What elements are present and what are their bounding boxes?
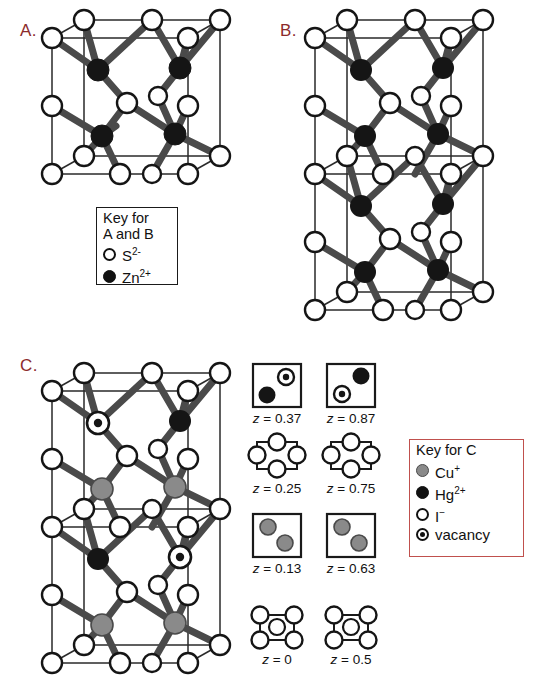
z-value-3: = 0.75 xyxy=(337,481,375,496)
z-value-7: = 0.5 xyxy=(341,652,371,667)
key-c-item-i: I− xyxy=(410,504,523,526)
z-layer-panel-5 xyxy=(325,512,377,559)
structure-a-cell xyxy=(42,8,232,196)
key-c-label-vacancy: vacancy xyxy=(435,527,490,543)
key-c-item-vacancy: vacancy xyxy=(410,526,523,544)
z-value-5: = 0.63 xyxy=(337,561,375,576)
z-layer-panel-3 xyxy=(325,432,377,479)
open-circle-icon xyxy=(103,248,116,261)
z-layer-caption-4: z = 0.13 xyxy=(245,561,309,576)
key-ab-title-line1: Key for xyxy=(103,211,177,227)
key-c-item-hg: Hg2+ xyxy=(410,482,523,504)
key-for-a-and-b: Key for A and B S2- Zn2+ xyxy=(96,207,178,285)
z-layer-panel-4 xyxy=(251,512,303,559)
key-ab-item-zn: Zn2+ xyxy=(97,265,177,287)
key-for-c: Key for C Cu+ Hg2+ I− vacancy xyxy=(409,439,524,557)
key-ab-label-zn: Zn2+ xyxy=(122,266,151,286)
z-value-6: = 0 xyxy=(273,652,292,667)
filled-circle-icon xyxy=(103,270,116,283)
z-value-4: = 0.13 xyxy=(263,561,301,576)
z-layer-caption-0: z = 0.37 xyxy=(245,411,309,426)
structure-c-cell xyxy=(42,346,237,686)
key-c-label-hg: Hg2+ xyxy=(435,483,466,503)
filled-circle-icon xyxy=(416,486,429,499)
z-value-1: = 0.87 xyxy=(337,411,375,426)
z-layer-panel-1 xyxy=(325,362,377,409)
key-c-title: Key for C xyxy=(410,440,523,460)
z-layer-caption-3: z = 0.75 xyxy=(319,481,383,496)
z-layer-caption-1: z = 0.87 xyxy=(319,411,383,426)
z-layer-panel-2 xyxy=(251,432,303,479)
z-layer-panel-0 xyxy=(251,362,303,409)
structure-b-cell xyxy=(305,8,500,318)
panel-label-c: C. xyxy=(20,356,38,376)
key-ab-item-s: S2- xyxy=(97,243,177,265)
key-ab-title: Key for A and B xyxy=(97,208,177,243)
key-c-label-i: I− xyxy=(435,505,445,525)
gray-circle-icon xyxy=(416,464,429,477)
z-layer-panel-6 xyxy=(251,604,303,651)
key-ab-label-s: S2- xyxy=(122,244,141,264)
z-layer-caption-2: z = 0.25 xyxy=(245,481,309,496)
z-layer-caption-5: z = 0.63 xyxy=(319,561,383,576)
key-c-label-cu: Cu+ xyxy=(435,461,460,481)
z-layer-caption-7: z = 0.5 xyxy=(319,652,383,667)
z-layer-caption-6: z = 0 xyxy=(245,652,309,667)
vacancy-circle-icon xyxy=(416,528,429,541)
panel-label-b: B. xyxy=(280,21,297,41)
z-value-0: = 0.37 xyxy=(263,411,301,426)
z-layer-panel-7 xyxy=(325,604,377,651)
key-c-item-cu: Cu+ xyxy=(410,460,523,482)
key-ab-title-line2: A and B xyxy=(103,227,177,243)
z-value-2: = 0.25 xyxy=(263,481,301,496)
open-circle-icon xyxy=(416,508,429,521)
panel-label-a: A. xyxy=(20,21,37,41)
